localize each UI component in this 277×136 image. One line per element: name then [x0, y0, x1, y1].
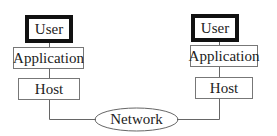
network-label: Network	[110, 111, 163, 128]
right-user-box: User	[191, 14, 239, 42]
left-user-label: User	[35, 21, 63, 38]
right-host-label: Host	[210, 80, 238, 97]
right-host-box: Host	[195, 77, 253, 99]
right-application-box: Application	[190, 45, 258, 67]
left-application-box: Application	[13, 47, 84, 69]
right-application-label: Application	[189, 48, 260, 65]
left-user-box: User	[25, 15, 73, 43]
network-node: Network	[95, 108, 178, 131]
right-user-label: User	[201, 20, 229, 37]
left-host-label: Host	[35, 81, 63, 98]
left-host-box: Host	[18, 78, 80, 100]
left-application-label: Application	[13, 50, 84, 67]
